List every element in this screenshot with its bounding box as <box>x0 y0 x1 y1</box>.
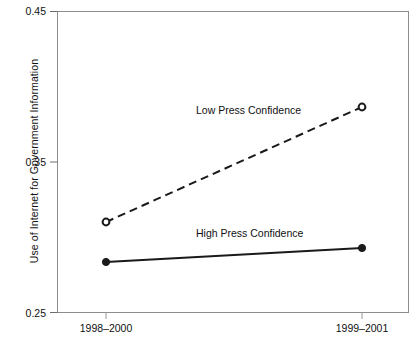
data-point-high-1999-2001 <box>358 244 365 251</box>
data-point-high-1998-2000 <box>102 258 109 265</box>
plot-area <box>0 0 420 355</box>
plot-frame <box>58 12 409 313</box>
series-high-press-confidence <box>102 244 365 265</box>
data-point-low-1998-2000 <box>103 219 110 226</box>
chart-figure: Use of Internet for Government Informati… <box>0 0 420 355</box>
series-line-high-press-confidence <box>106 248 362 262</box>
data-point-low-1999-2001 <box>359 104 366 111</box>
series-line-low-press-confidence <box>106 107 362 222</box>
series-low-press-confidence <box>103 104 366 226</box>
